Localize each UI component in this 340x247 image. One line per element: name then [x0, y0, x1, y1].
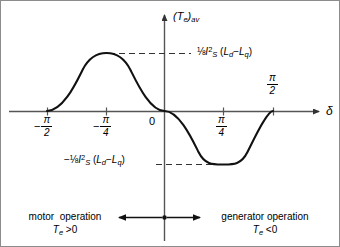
torque-curve [47, 53, 273, 165]
motor-torque-condition: >0 [66, 224, 77, 235]
neg-amp-paren-close: ) [122, 154, 125, 165]
y-axis-title-av-subscript: av [191, 15, 199, 24]
neg-half-denominator: 2 [41, 127, 52, 138]
pos-half-fraction: π2 [267, 73, 278, 96]
neg-quarter-fraction: π4 [100, 115, 111, 138]
neg-quarter-sign: − [93, 121, 100, 132]
x-axis-title: δ [326, 105, 333, 117]
figure-panel: (Te)av δ −π2 −π4 0 π4 π2 ⅛I2S (Ld−Lq) −⅛… [0, 0, 340, 247]
neg-amp-coefficient: ⅛ [70, 154, 78, 165]
pos-quarter-numerator: π [216, 115, 227, 127]
positive-amplitude-label: ⅛I2S (Ld−Lq) [197, 46, 252, 59]
region-divider-dot [162, 215, 167, 220]
y-axis-title: (Te)av [173, 11, 199, 24]
motor-operation-caption: motor operation Te >0 [15, 211, 115, 237]
x-tick-label-neg-half: −π2 [34, 115, 52, 138]
neg-half-sign: − [34, 121, 41, 132]
pos-half-numerator: π [267, 73, 278, 85]
generator-torque-condition: <0 [266, 224, 277, 235]
neg-quarter-numerator: π [100, 115, 111, 127]
motor-caption-condition: Te >0 [15, 224, 115, 237]
x-tick-label-pos-quarter: π4 [216, 115, 227, 138]
neg-quarter-denominator: 4 [100, 127, 111, 138]
generator-caption-condition: Te <0 [205, 224, 325, 237]
motor-caption-text: motor operation [15, 211, 115, 222]
x-tick-label-zero: 0 [149, 116, 155, 127]
generator-caption-text: generator operation [205, 211, 325, 222]
x-tick-label-neg-quarter: −π4 [93, 115, 111, 138]
pos-half-denominator: 2 [267, 85, 278, 96]
pos-amp-paren-close: ) [249, 46, 252, 57]
neg-half-fraction: π2 [41, 115, 52, 138]
neg-half-numerator: π [41, 115, 52, 127]
x-tick-label-pos-half: π2 [267, 73, 278, 96]
negative-amplitude-label: −⅛I2S (Ld−Lq) [64, 154, 125, 167]
generator-operation-caption: generator operation Te <0 [205, 211, 325, 237]
pos-quarter-denominator: 4 [216, 127, 227, 138]
pos-quarter-fraction: π4 [216, 115, 227, 138]
